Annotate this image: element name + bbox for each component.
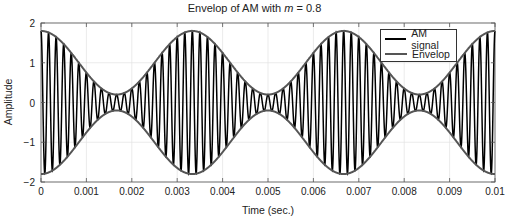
- chart-title: Envelop of AM with m = 0.8: [0, 2, 509, 14]
- x-tick-label: 0.007: [346, 186, 371, 197]
- x-tick-label: 0.01: [485, 186, 505, 197]
- legend-item-envelop: Envelop: [385, 47, 450, 61]
- title-value: = 0.8: [293, 2, 321, 14]
- x-tick-label: 0.006: [301, 186, 326, 197]
- y-tick-label: 1: [29, 58, 35, 69]
- y-tick-label: 2: [29, 18, 35, 29]
- title-text: Envelop of AM with: [188, 2, 285, 14]
- y-axis-label: Amplitude: [2, 79, 14, 126]
- x-tick-label: 0.005: [255, 186, 280, 197]
- legend-item-am-signal: AM signal: [385, 32, 456, 46]
- x-tick-label: 0.003: [165, 186, 190, 197]
- x-tick-label: 0.004: [210, 186, 235, 197]
- legend-label-envelop: Envelop: [412, 48, 450, 60]
- y-tick-label: 0: [29, 98, 35, 109]
- x-tick-label: 0.001: [74, 186, 99, 197]
- legend-swatch-envelop: [385, 53, 407, 55]
- legend: AM signal Envelop: [380, 29, 457, 62]
- y-tick-label: −2: [24, 177, 36, 188]
- x-tick-label: 0.002: [119, 186, 144, 197]
- legend-swatch-am-signal: [385, 38, 406, 40]
- y-tick-label: −1: [24, 137, 36, 148]
- x-tick-label: 0: [38, 186, 44, 197]
- x-tick-label: 0.008: [392, 186, 417, 197]
- x-axis-label: Time (sec.): [242, 204, 294, 216]
- x-tick-label: 0.009: [437, 186, 462, 197]
